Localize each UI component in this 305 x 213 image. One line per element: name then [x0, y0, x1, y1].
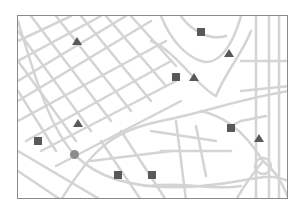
- triangle-marker-icon[interactable]: [254, 134, 264, 142]
- triangle-marker-icon[interactable]: [189, 73, 199, 81]
- square-marker-icon[interactable]: [114, 171, 122, 179]
- square-marker-icon[interactable]: [148, 171, 156, 179]
- circle-marker-icon[interactable]: [70, 150, 79, 159]
- square-marker-icon[interactable]: [172, 73, 180, 81]
- triangle-marker-icon[interactable]: [73, 119, 83, 127]
- square-marker-icon[interactable]: [227, 124, 235, 132]
- square-marker-icon[interactable]: [34, 137, 42, 145]
- triangle-marker-icon[interactable]: [72, 37, 82, 45]
- square-marker-icon[interactable]: [197, 28, 205, 36]
- triangle-marker-icon[interactable]: [224, 49, 234, 57]
